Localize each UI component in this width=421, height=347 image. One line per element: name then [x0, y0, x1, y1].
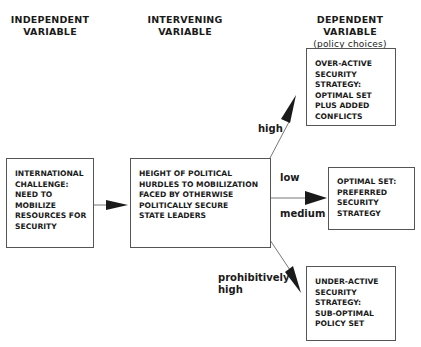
arrow-independent-to-intervening — [94, 200, 128, 210]
optimal-set-box: OPTIMAL SET: PREFERRED SECURITY STRATEGY — [328, 167, 415, 230]
arrow-to-optimal — [270, 191, 327, 205]
box-line: HURDLES TO MOBILIZATION — [139, 180, 264, 191]
intervening-variable-box: HEIGHT OF POLITICAL HURDLES TO MOBILIZAT… — [130, 158, 271, 248]
box-line: POLICY SET — [315, 319, 389, 330]
box-line: STATE LEADERS — [139, 211, 264, 222]
box-line: MOBILIZE — [15, 201, 87, 212]
independent-variable-box: INTERNATIONAL CHALLENGE: NEED TO MOBILIZ… — [6, 158, 94, 248]
edge-label-low: low — [280, 172, 300, 184]
box-line: OPTIMAL SET: — [337, 177, 408, 188]
box-line: RESOURCES FOR — [15, 211, 87, 222]
box-line: SUB-OPTIMAL — [315, 309, 389, 320]
box-line: OVER-ACTIVE — [315, 59, 389, 70]
box-line: CHALLENGE: — [15, 180, 87, 191]
edge-label-high: high — [258, 123, 283, 135]
under-active-strategy-box: UNDER-ACTIVE SECURITY STRATEGY: SUB-OPTI… — [306, 266, 396, 341]
over-active-strategy-box: OVER-ACTIVE SECURITY STRATEGY: OPTIMAL S… — [306, 48, 396, 126]
edge-label-medium: medium — [280, 208, 325, 220]
box-line: UNDER-ACTIVE — [315, 277, 389, 288]
edge-label-prohibitively-high: prohibitively high — [218, 272, 290, 296]
box-line: NEED TO — [15, 190, 87, 201]
box-line: HEIGHT OF POLITICAL — [139, 169, 264, 180]
box-line: STRATEGY: — [315, 80, 389, 91]
box-line: STRATEGY — [337, 209, 408, 220]
box-line: PLUS ADDED — [315, 101, 389, 112]
box-line: STRATEGY: — [315, 298, 389, 309]
box-line: OPTIMAL SET — [315, 91, 389, 102]
label-line: prohibitively — [218, 272, 290, 284]
box-line: SECURITY — [315, 70, 389, 81]
label-line: high — [218, 284, 290, 296]
box-line: PREFERRED — [337, 188, 408, 199]
box-line: POLITICALLY SECURE — [139, 201, 264, 212]
box-line: SECURITY — [315, 288, 389, 299]
box-line: FACED BY OTHERWISE — [139, 190, 264, 201]
box-line: SECURITY — [15, 222, 87, 233]
box-line: SECURITY — [337, 198, 408, 209]
box-line: CONFLICTS — [315, 112, 389, 123]
box-line: INTERNATIONAL — [15, 169, 87, 180]
